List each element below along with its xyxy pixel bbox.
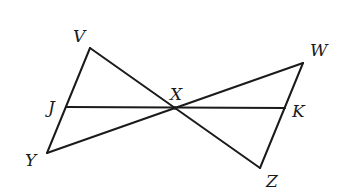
label-K: K — [291, 101, 306, 121]
point-X-dot — [173, 106, 177, 110]
label-V: V — [73, 26, 87, 46]
label-Y: Y — [25, 150, 38, 170]
label-W: W — [310, 40, 329, 60]
diagram-svg: V Y W Z X J K — [0, 0, 351, 191]
label-J: J — [45, 97, 56, 117]
label-Z: Z — [265, 171, 279, 191]
geometry-diagram: V Y W Z X J K — [0, 0, 351, 191]
label-X: X — [168, 84, 183, 104]
